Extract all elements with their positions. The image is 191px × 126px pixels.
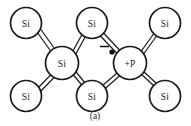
atom-label: Si [161,19,169,29]
atom-label: Si [58,59,66,69]
atom-si-middle-left: Si [46,47,79,80]
lattice-diagram: Si Si Si Si +P Si Si Si [0,0,191,126]
atom-p-dopant-center: +P [114,47,147,80]
atom-label: Si [161,92,169,102]
atom-si-top-center: Si [77,8,108,39]
atom-label: Si [22,92,30,102]
dopant-label: +P [124,59,135,69]
free-electron [100,47,115,55]
silicon-lattice-figure: Si Si Si Si +P Si Si Si [0,0,191,126]
atom-si-bottom-right: Si [150,81,181,112]
figure-caption: (a) [90,111,101,122]
atom-si-bottom-left: Si [11,81,42,112]
electron-dot-icon [109,49,114,54]
atom-si-top-left: Si [11,8,42,39]
atom-label: Si [88,92,96,102]
atom-si-top-right: Si [150,8,181,39]
atom-si-bottom-center: Si [77,81,108,112]
atom-label: Si [22,19,30,29]
atom-label: Si [88,19,96,29]
